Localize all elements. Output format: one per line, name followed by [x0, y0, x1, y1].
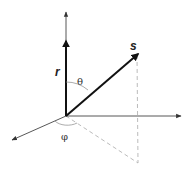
label-s: s [130, 39, 137, 53]
projection-lines [66, 55, 138, 163]
angle-phi-arc [55, 121, 77, 125]
label-phi: φ [61, 131, 68, 142]
coordinate-diagram: r s θ φ [0, 0, 191, 173]
depth-axis [12, 116, 66, 140]
projection-vertical-dashed [137, 55, 138, 163]
label-r: r [55, 65, 61, 79]
label-theta: θ [77, 76, 83, 87]
